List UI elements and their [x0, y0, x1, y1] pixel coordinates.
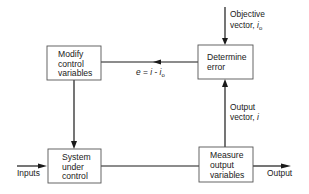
- modify-label-line-3: variables: [58, 68, 92, 78]
- error-minus: -: [152, 67, 159, 77]
- modify-to-system-arrowhead: [71, 141, 77, 149]
- error-equation-label: e = i - io: [136, 67, 165, 78]
- error-eq: =: [141, 67, 151, 77]
- determine-label-line-1: Determine: [207, 52, 247, 62]
- output-vector-line-2: vector, i: [230, 112, 260, 122]
- output-label: Output: [267, 168, 293, 178]
- objective-vector-label: Objective vector, io: [230, 9, 265, 31]
- error-arrowhead: [153, 60, 161, 65]
- system-label-line-2: under: [62, 162, 84, 172]
- objective-prefix: vector,: [230, 20, 257, 30]
- modify-label-line-2: control: [58, 59, 84, 69]
- measure-label-line-1: Measure: [210, 150, 244, 160]
- output-vector-line-1: Output: [230, 102, 256, 112]
- modify-label-line-1: Modify: [58, 49, 84, 59]
- objective-label-line-2: vector, io: [230, 20, 263, 31]
- block-modify-control-variables: Modify control variables: [47, 46, 101, 80]
- objective-arrowhead: [222, 38, 228, 45]
- output-vector-var: i: [257, 112, 260, 122]
- block-determine-error: Determine error: [198, 45, 253, 79]
- objective-sub: o: [259, 25, 263, 31]
- control-loop-diagram: Modify control variables Determine error…: [0, 0, 309, 194]
- block-system-under-control: System under control: [48, 149, 101, 183]
- output-vector-arrowhead: [222, 79, 228, 87]
- determine-label-line-2: error: [207, 62, 225, 72]
- inputs-label: Inputs: [17, 168, 40, 178]
- system-label-line-1: System: [62, 152, 91, 162]
- objective-label-line-1: Objective: [230, 9, 265, 19]
- error-sub: o: [161, 72, 165, 78]
- system-label-line-3: control: [62, 171, 88, 181]
- measure-label-line-3: variables: [210, 170, 244, 180]
- measure-label-line-2: output: [210, 160, 235, 170]
- output-vector-prefix: vector,: [230, 112, 257, 122]
- output-vector-label: Output vector, i: [230, 102, 260, 122]
- block-measure-output-variables: Measure output variables: [199, 147, 253, 182]
